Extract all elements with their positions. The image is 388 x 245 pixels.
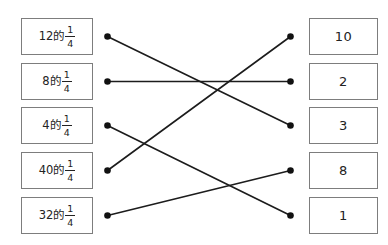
connection-line <box>108 171 291 216</box>
left-item-box[interactable]: 32的14 <box>21 197 93 234</box>
right-item-label: 2 <box>339 74 348 89</box>
left-item-box[interactable]: 40的14 <box>21 152 93 189</box>
left-item-label: 4的14 <box>42 114 71 137</box>
fraction: 14 <box>65 25 75 48</box>
right-dot[interactable] <box>287 122 294 129</box>
left-dot[interactable] <box>104 78 111 85</box>
right-dot[interactable] <box>287 212 294 219</box>
right-dot[interactable] <box>287 33 294 40</box>
left-item-label: 8的14 <box>42 70 71 93</box>
right-dot[interactable] <box>287 78 294 85</box>
left-item-box[interactable]: 12的14 <box>21 18 93 55</box>
right-item-label: 3 <box>339 118 348 133</box>
right-item-label: 8 <box>339 163 348 178</box>
left-dot[interactable] <box>104 33 111 40</box>
left-item-label: 12的14 <box>39 25 76 48</box>
connection-line <box>108 37 291 171</box>
left-dot[interactable] <box>104 167 111 174</box>
right-item-box[interactable]: 2 <box>309 63 378 100</box>
right-item-box[interactable]: 3 <box>309 107 378 144</box>
left-item-label: 40的14 <box>39 159 76 182</box>
fraction: 14 <box>62 70 72 93</box>
fraction: 14 <box>62 114 72 137</box>
fraction: 14 <box>65 159 75 182</box>
connection-line <box>108 126 291 216</box>
fraction: 14 <box>65 204 75 227</box>
right-item-label: 1 <box>339 208 348 223</box>
right-item-box[interactable]: 10 <box>309 18 378 55</box>
left-item-box[interactable]: 8的14 <box>21 63 93 100</box>
right-item-box[interactable]: 1 <box>309 197 378 234</box>
right-item-box[interactable]: 8 <box>309 152 378 189</box>
matching-worksheet: 12的148的144的1440的1432的14 102381 <box>0 0 388 245</box>
right-dot[interactable] <box>287 167 294 174</box>
right-item-label: 10 <box>335 29 353 44</box>
left-dot[interactable] <box>104 212 111 219</box>
left-item-label: 32的14 <box>39 204 76 227</box>
left-dot[interactable] <box>104 122 111 129</box>
left-item-box[interactable]: 4的14 <box>21 107 93 144</box>
